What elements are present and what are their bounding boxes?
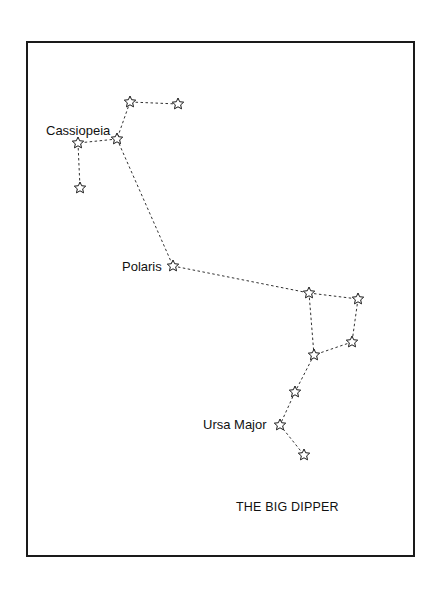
connection-line	[117, 102, 130, 139]
connection-line	[117, 139, 173, 266]
connection-line	[295, 355, 314, 392]
stars	[72, 96, 363, 460]
constellation-lines	[78, 102, 358, 455]
star-icon	[303, 287, 314, 298]
star-icon	[352, 293, 363, 304]
connection-line	[173, 266, 309, 293]
connection-line	[130, 102, 178, 104]
connection-line	[352, 299, 358, 342]
star-icon	[72, 137, 83, 148]
star-chart	[0, 0, 441, 590]
label-ursa-major: Ursa Major	[203, 418, 267, 431]
connection-line	[280, 392, 295, 425]
label-cassiopeia: Cassiopeia	[46, 124, 110, 137]
star-icon	[308, 349, 319, 360]
star-icon	[172, 98, 183, 109]
connection-line	[309, 293, 358, 299]
connection-line	[309, 293, 314, 355]
star-icon	[289, 386, 300, 397]
star-icon	[124, 96, 135, 107]
star-icon	[111, 133, 122, 144]
diagram-title: THE BIG DIPPER	[236, 500, 339, 514]
star-icon	[298, 449, 309, 460]
star-icon	[346, 336, 357, 347]
label-polaris: Polaris	[122, 260, 162, 273]
star-icon	[274, 419, 285, 430]
connection-line	[78, 143, 80, 188]
star-icon	[167, 260, 178, 271]
star-icon	[74, 182, 85, 193]
